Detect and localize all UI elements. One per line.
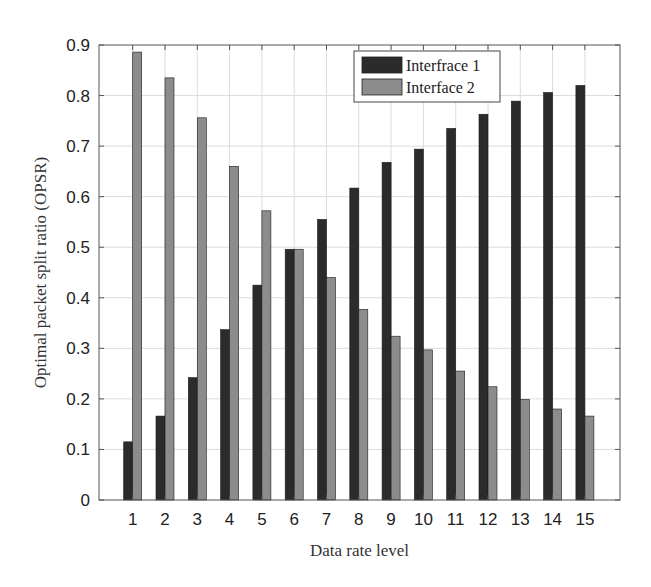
bar-interface-1 [479,114,488,500]
bar-interface-2 [262,211,271,500]
x-tick-label: 14 [543,510,562,529]
x-tick-label: 8 [354,510,363,529]
x-tick-label: 12 [479,510,498,529]
bar-interface-1 [124,442,133,500]
bar-interface-2 [133,52,142,500]
x-tick-label: 5 [257,510,266,529]
x-tick-label: 3 [193,510,202,529]
bar-interface-1 [447,128,456,500]
bar-interface-2 [488,387,497,500]
bar-interface-1 [544,93,553,500]
y-tick-label: 0.1 [66,440,90,459]
legend-swatch-interface-2 [362,79,402,95]
bar-interface-1 [156,416,165,500]
x-tick-label: 15 [575,510,594,529]
legend-label-interface-1: Interfrace 1 [406,57,480,74]
bar-interface-2 [230,166,239,500]
legend-swatch-interface-1 [362,57,402,73]
x-tick-label: 6 [289,510,298,529]
bar-interface-1 [414,149,423,500]
bar-interface-1 [221,330,230,500]
y-tick-label: 0.8 [66,87,90,106]
bar-interface-1 [253,285,262,500]
y-tick-label: 0.6 [66,188,90,207]
bar-interface-1 [382,162,391,500]
x-tick-labels: 123456789101112131415 [128,510,594,529]
bar-interface-2 [520,399,529,500]
legend-label-interface-2: Interface 2 [406,79,475,96]
x-tick-label: 1 [128,510,137,529]
y-tick-labels: 00.10.20.30.40.50.60.70.80.9 [66,36,90,510]
bar-interface-2 [294,249,303,500]
bar-interface-2 [327,278,336,500]
bar-interface-1 [188,378,197,500]
x-tick-label: 4 [225,510,234,529]
x-tick-label: 2 [160,510,169,529]
bar-interface-2 [391,336,400,500]
bar-interface-2 [359,309,368,500]
bar-interface-2 [456,371,465,500]
x-tick-label: 13 [511,510,530,529]
bar-interface-2 [585,416,594,500]
x-axis-title: Data rate level [310,541,409,560]
bar-interface-2 [197,118,206,500]
x-tick-label: 9 [386,510,395,529]
bar-interface-2 [553,409,562,500]
y-tick-label: 0.3 [66,339,90,358]
y-tick-label: 0 [81,491,90,510]
bar-interface-2 [423,350,432,500]
bar-interface-1 [318,219,327,500]
y-tick-label: 0.2 [66,390,90,409]
bar-interface-2 [165,78,174,500]
bar-interface-1 [350,188,359,500]
legend: Interfrace 1 Interface 2 [354,51,500,102]
y-tick-label: 0.9 [66,36,90,55]
x-tick-label: 7 [322,510,331,529]
y-tick-label: 0.5 [66,238,90,257]
y-tick-label: 0.7 [66,137,90,156]
bar-interface-1 [285,249,294,500]
bar-interface-1 [576,85,585,500]
x-tick-label: 10 [414,510,433,529]
bar-interface-1 [511,101,520,500]
x-tick-label: 11 [447,510,465,529]
bar-chart: 00.10.20.30.40.50.60.70.80.9 12345678910… [0,0,651,587]
y-tick-label: 0.4 [66,289,90,308]
y-axis-title: Optimal packet split ratio (OPSR) [31,157,50,388]
